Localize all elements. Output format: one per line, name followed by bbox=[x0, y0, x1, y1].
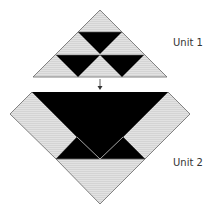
unit-1-triangle bbox=[33, 10, 167, 77]
unit-2-shape bbox=[10, 92, 190, 204]
down-arrow-icon bbox=[98, 79, 103, 90]
quilt-diagram bbox=[0, 0, 212, 214]
unit-1-label: Unit 1 bbox=[173, 37, 203, 48]
unit-2-label: Unit 2 bbox=[173, 157, 203, 168]
